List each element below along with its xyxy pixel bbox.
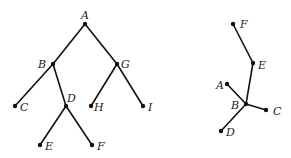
node-label-C: C bbox=[20, 101, 29, 114]
node-E bbox=[251, 61, 255, 65]
node-C bbox=[264, 108, 268, 112]
node-label-A: A bbox=[215, 79, 224, 92]
node-E bbox=[38, 143, 42, 147]
edge-B-C bbox=[246, 104, 266, 110]
node-label-E: E bbox=[44, 140, 53, 153]
edge-A-G bbox=[85, 24, 117, 64]
node-F bbox=[231, 22, 235, 26]
node-label-B: B bbox=[230, 99, 239, 112]
node-A bbox=[83, 22, 87, 26]
node-I bbox=[141, 104, 145, 108]
node-F bbox=[90, 143, 94, 147]
node-label-I: I bbox=[147, 101, 153, 114]
edge-A-B bbox=[53, 24, 85, 64]
edge-E-B bbox=[246, 63, 253, 104]
node-A bbox=[225, 82, 229, 86]
node-D bbox=[219, 129, 223, 133]
node-label-F: F bbox=[96, 140, 105, 153]
node-H bbox=[89, 104, 93, 108]
tree-diagram: ABGCDHIEF FEABCD bbox=[0, 0, 291, 158]
edge-G-H bbox=[91, 64, 117, 106]
node-label-G: G bbox=[121, 58, 130, 71]
node-label-D: D bbox=[66, 92, 76, 105]
node-label-F: F bbox=[239, 18, 248, 31]
node-label-C: C bbox=[273, 105, 282, 118]
node-B bbox=[244, 102, 248, 106]
node-C bbox=[13, 104, 17, 108]
node-label-D: D bbox=[225, 126, 235, 139]
edge-B-D bbox=[53, 64, 66, 106]
edge-B-C bbox=[15, 64, 53, 106]
rooted-binary-tree: ABGCDHIEF bbox=[13, 9, 153, 153]
edge-D-F bbox=[66, 106, 92, 145]
node-B bbox=[51, 62, 55, 66]
node-label-H: H bbox=[93, 101, 104, 114]
node-label-E: E bbox=[257, 59, 266, 72]
node-label-A: A bbox=[80, 9, 89, 22]
unrooted-tree: FEABCD bbox=[215, 18, 282, 139]
node-G bbox=[115, 62, 119, 66]
node-label-B: B bbox=[37, 58, 46, 71]
